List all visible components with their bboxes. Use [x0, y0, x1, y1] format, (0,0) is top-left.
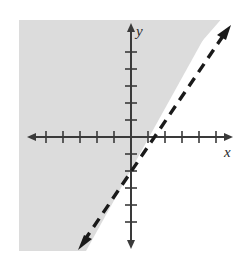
x-axis-arrow-right: [224, 133, 233, 141]
shaded-region: [19, 8, 231, 251]
shaded-region-fill-main: [19, 20, 214, 251]
y-axis-arrow-down: [127, 240, 135, 249]
y-axis-label: y: [134, 23, 143, 39]
inequality-graph-figure: y x: [0, 0, 248, 261]
x-axis-label: x: [223, 144, 231, 160]
coordinate-plane: y x: [0, 0, 248, 261]
boundary-line-arrow-upper-right: [217, 25, 231, 40]
